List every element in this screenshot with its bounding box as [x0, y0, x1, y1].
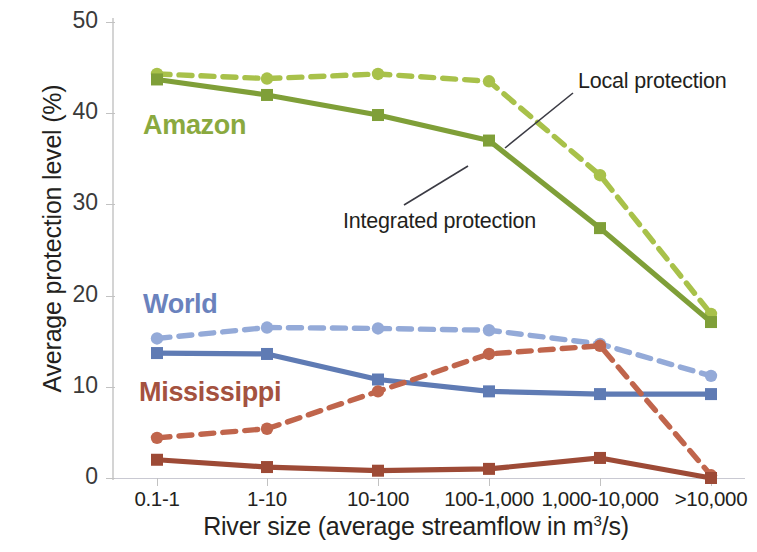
- y-axis-line: [112, 18, 114, 480]
- data-point-marker: [151, 332, 163, 344]
- data-point-marker: [151, 68, 163, 80]
- x-axis-title-prefix: River size (average streamflow in m: [203, 512, 593, 540]
- x-axis-title-superscript: 3: [594, 512, 602, 529]
- series-mississippi-solid: [151, 452, 717, 484]
- data-point-marker: [261, 461, 273, 473]
- x-axis-title-suffix: /s): [602, 512, 629, 540]
- series-world-dashed: [151, 321, 717, 382]
- data-point-marker: [483, 324, 495, 336]
- series-group-label-world: World: [143, 289, 218, 320]
- data-point-marker: [372, 465, 384, 477]
- x-tick-mark: [157, 478, 158, 486]
- data-point-marker: [483, 348, 495, 360]
- data-point-marker: [372, 322, 384, 334]
- data-point-marker: [483, 75, 495, 87]
- data-point-marker: [261, 348, 273, 360]
- y-tick-mark: [106, 204, 115, 205]
- x-tick-mark: [267, 478, 268, 486]
- chart-figure: Average protection level (%) River size …: [0, 0, 757, 552]
- data-point-marker: [705, 370, 717, 382]
- data-point-marker: [483, 463, 495, 475]
- series-amazon-dashed: [151, 68, 717, 320]
- leader-line-integrated: [404, 166, 468, 205]
- y-tick-mark: [106, 22, 115, 23]
- data-point-marker: [594, 388, 606, 400]
- x-tick-label: >10,000: [641, 487, 757, 511]
- data-point-marker: [151, 73, 163, 85]
- data-point-marker: [372, 385, 384, 397]
- data-point-marker: [261, 72, 273, 84]
- data-point-marker: [594, 222, 606, 234]
- x-axis-title: River size (average streamflow in m3/s): [96, 512, 736, 541]
- x-tick-mark: [489, 478, 490, 486]
- annotation-local-protection: Local protection: [578, 69, 727, 94]
- data-point-marker: [594, 340, 606, 352]
- data-point-marker: [372, 68, 384, 80]
- series-mississippi-dashed: [151, 340, 717, 482]
- y-tick-mark: [106, 296, 115, 297]
- y-tick-label: 30: [38, 189, 98, 216]
- data-point-marker: [705, 316, 717, 328]
- data-point-marker: [594, 338, 606, 350]
- data-point-marker: [594, 452, 606, 464]
- y-tick-label: 20: [38, 281, 98, 308]
- data-point-marker: [372, 109, 384, 121]
- y-tick-label: 0: [38, 463, 98, 490]
- x-tick-mark: [378, 478, 379, 486]
- leader-line-local: [505, 93, 573, 148]
- data-point-marker: [261, 423, 273, 435]
- x-axis-line: [112, 478, 745, 479]
- data-point-marker: [151, 454, 163, 466]
- data-point-marker: [594, 169, 606, 181]
- y-tick-mark: [106, 478, 115, 479]
- y-tick-mark: [106, 387, 115, 388]
- series-line: [157, 458, 711, 478]
- series-line: [157, 346, 711, 476]
- data-point-marker: [483, 385, 495, 397]
- data-point-marker: [151, 432, 163, 444]
- data-point-marker: [705, 388, 717, 400]
- x-tick-mark: [600, 478, 601, 486]
- y-axis-title: Average protection level (%): [38, 4, 67, 474]
- y-tick-label: 50: [38, 7, 98, 34]
- data-point-marker: [151, 347, 163, 359]
- annotation-integrated-protection: Integrated protection: [343, 209, 536, 234]
- data-point-marker: [261, 89, 273, 101]
- series-line: [157, 328, 711, 376]
- y-tick-label: 40: [38, 98, 98, 125]
- series-group-label-amazon: Amazon: [143, 110, 246, 141]
- series-group-label-mississippi: Mississippi: [139, 377, 281, 408]
- x-tick-mark: [711, 478, 712, 486]
- data-point-marker: [483, 135, 495, 147]
- data-point-marker: [372, 374, 384, 386]
- data-point-marker: [261, 321, 273, 333]
- y-tick-label: 10: [38, 372, 98, 399]
- y-tick-mark: [106, 113, 115, 114]
- data-point-marker: [705, 308, 717, 320]
